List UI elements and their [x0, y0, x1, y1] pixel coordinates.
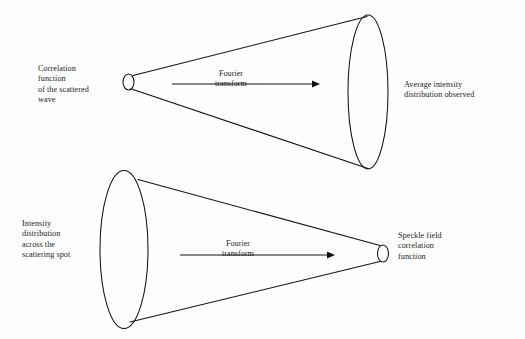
bottom-arrow-head [327, 252, 335, 259]
bottom-cone-apex-ellipse [378, 245, 389, 262]
bottom-cone-right-label: Speckle field correlation function [398, 231, 516, 262]
top-arrow-head [312, 81, 320, 88]
bottom-cone-lower-edge [130, 262, 380, 323]
bottom-cone-left-label: Intensity distribution across the scatte… [22, 219, 114, 261]
top-cone-base-ellipse [348, 15, 388, 169]
top-cone-operation-label: Fourier transform [198, 69, 264, 89]
diagram-canvas [0, 0, 525, 339]
top-cone-lower-edge [132, 89, 369, 169]
bottom-cone-operation-label: Fourier transform [205, 239, 271, 259]
figure-root: Correlation function of the scattered wa… [0, 0, 525, 339]
top-cone-upper-edge [133, 17, 367, 76]
top-cone-group [123, 15, 388, 169]
bottom-cone-upper-edge [138, 180, 380, 246]
top-cone-right-label: Average intensity distribution observed [404, 80, 524, 101]
top-cone-left-label: Correlation function of the scattered wa… [38, 64, 134, 106]
